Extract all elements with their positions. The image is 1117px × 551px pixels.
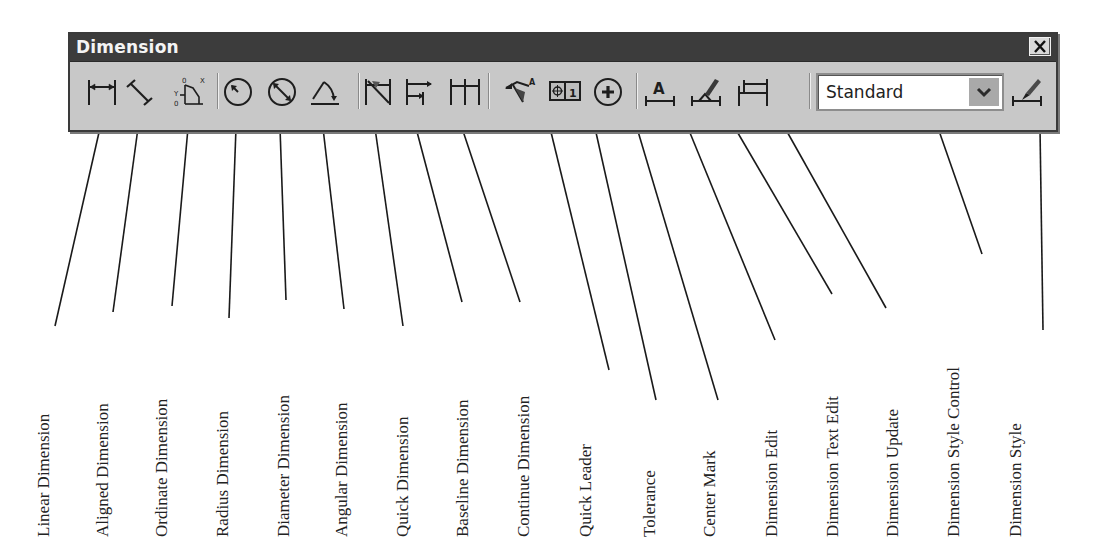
toolbar-separator [488, 73, 490, 109]
baseline-dimension-button[interactable] [402, 75, 436, 109]
svg-text:0: 0 [182, 77, 186, 85]
callout-label-diameter-dimension: Diameter Dimension [274, 395, 294, 537]
continue-dimension-button[interactable] [448, 75, 482, 109]
svg-text:X: X [200, 77, 205, 85]
dimension-text-edit-icon [689, 76, 723, 108]
quick-leader-icon: A [503, 76, 537, 108]
linear-dimension-icon [86, 77, 118, 107]
radius-dimension-button[interactable] [221, 75, 255, 109]
callout-label-ordinate-dimension: Ordinate Dimension [152, 399, 172, 537]
callout-label-baseline-dimension: Baseline Dimension [453, 400, 473, 537]
radius-dimension-icon [222, 76, 254, 108]
dimension-style-button[interactable] [1010, 75, 1044, 109]
tolerance-icon: 1 [549, 80, 581, 104]
ordinate-dimension-icon: 0 X Y 0 [173, 76, 207, 108]
chevron-down-icon [976, 86, 992, 98]
continue-dimension-icon [448, 76, 482, 108]
toolbar-separator [809, 73, 811, 109]
callout-label-aligned-dimension: Aligned Dimension [93, 403, 113, 537]
callout-label-dimension-text-edit: Dimension Text Edit [823, 396, 843, 537]
close-button[interactable] [1029, 37, 1051, 56]
svg-text:A: A [653, 80, 665, 98]
callout-label-quick-dimension: Quick Dimension [393, 417, 413, 537]
quick-dimension-icon [362, 76, 394, 108]
dimension-style-icon [1010, 76, 1044, 108]
baseline-dimension-icon [403, 76, 435, 108]
svg-text:Y: Y [173, 90, 179, 98]
quick-leader-button[interactable]: A [503, 75, 537, 109]
callout-label-linear-dimension: Linear Dimension [34, 414, 54, 537]
callout-label-tolerance: Tolerance [640, 470, 660, 537]
center-mark-icon [592, 76, 624, 108]
tolerance-button[interactable]: 1 [548, 75, 582, 109]
angular-dimension-button[interactable] [308, 75, 342, 109]
dimension-update-button[interactable] [736, 75, 770, 109]
dimension-text-edit-button[interactable] [689, 75, 723, 109]
svg-text:1: 1 [569, 87, 577, 100]
callout-label-continue-dimension: Continue Dimension [514, 396, 534, 537]
toolbar-separator [358, 73, 360, 109]
callout-label-dimension-edit: Dimension Edit [762, 430, 782, 537]
callout-label-quick-leader: Quick Leader [576, 444, 596, 537]
dimension-toolbar: Dimension [68, 32, 1058, 132]
toolbar-separator [636, 73, 638, 109]
callout-label-radius-dimension: Radius Dimension [213, 411, 233, 537]
aligned-dimension-button[interactable] [122, 75, 156, 109]
linear-dimension-button[interactable] [85, 75, 119, 109]
toolbar-titlebar[interactable]: Dimension [70, 34, 1056, 62]
toolbar-separator [217, 73, 219, 109]
dimension-edit-icon: A [643, 76, 677, 108]
callout-label-dimension-style: Dimension Style [1006, 423, 1026, 537]
svg-text:A: A [529, 78, 536, 87]
dimension-style-control[interactable]: Standard [816, 73, 1004, 111]
aligned-dimension-icon [123, 77, 155, 107]
dimension-style-value: Standard [826, 82, 903, 102]
callout-label-dimension-style-control: Dimension Style Control [944, 367, 964, 537]
dimension-edit-button[interactable]: A [643, 75, 677, 109]
callout-label-angular-dimension: Angular Dimension [332, 402, 352, 537]
callout-label-center-mark: Center Mark [700, 451, 720, 537]
ordinate-dimension-button[interactable]: 0 X Y 0 [173, 75, 207, 109]
dropdown-arrow-button[interactable] [969, 78, 999, 106]
center-mark-button[interactable] [591, 75, 625, 109]
toolbar-title: Dimension [76, 37, 179, 57]
diameter-dimension-icon [266, 76, 298, 108]
diameter-dimension-button[interactable] [265, 75, 299, 109]
svg-text:0: 0 [174, 100, 178, 108]
close-icon [1033, 40, 1047, 53]
toolbar-icon-row: 0 X Y 0 [70, 61, 1056, 130]
quick-dimension-button[interactable] [361, 75, 395, 109]
angular-dimension-icon [308, 76, 342, 108]
callout-label-dimension-update: Dimension Update [883, 409, 903, 537]
dimension-update-icon [736, 76, 770, 108]
